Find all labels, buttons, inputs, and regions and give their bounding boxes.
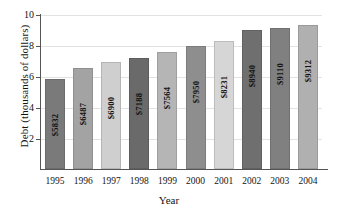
bar-slot: $7564 (153, 14, 181, 169)
y-tick-label: 8 (29, 41, 34, 51)
bars-layer: $5832$6487$6900$7188$7564$7950$8231$8940… (41, 14, 322, 169)
bar-value-label: $7188 (134, 92, 144, 114)
y-tick-mark (36, 46, 40, 47)
bar[interactable]: $6487 (73, 68, 93, 169)
y-tick-mark (36, 15, 40, 16)
y-tick-mark (36, 139, 40, 140)
bar-value-label: $9110 (275, 63, 285, 85)
bar-slot: $8940 (238, 14, 266, 169)
bar[interactable]: $7950 (186, 46, 206, 169)
x-axis-line (40, 169, 328, 170)
bar-slot: $8231 (210, 14, 238, 169)
bar-value-label: $8940 (247, 65, 257, 87)
bar-slot: $7188 (125, 14, 153, 169)
bar-slot: $5832 (41, 14, 69, 169)
y-tick-mark (36, 108, 40, 109)
bar[interactable]: $7564 (157, 52, 177, 169)
bar-value-label: $9312 (303, 60, 313, 82)
bar[interactable]: $8231 (214, 41, 234, 169)
bar-slot: $6900 (97, 14, 125, 169)
bar[interactable]: $7188 (129, 58, 149, 169)
bar-value-label: $5832 (50, 113, 60, 135)
bar-slot: $9312 (294, 14, 322, 169)
bar[interactable]: $6900 (101, 62, 121, 169)
x-axis-title: Year (0, 194, 338, 206)
y-tick-label: 10 (24, 10, 34, 20)
y-tick-label: 4 (29, 103, 34, 113)
bar[interactable]: $5832 (45, 79, 65, 169)
bar-value-label: $6487 (78, 103, 88, 125)
plot-area: 246810 $5832$6487$6900$7188$7564$7950$82… (40, 14, 322, 170)
bar-slot: $7950 (182, 14, 210, 169)
bar[interactable]: $8940 (242, 30, 262, 169)
bar-value-label: $6900 (106, 97, 116, 119)
bar-value-label: $7564 (162, 87, 172, 109)
bar-value-label: $8231 (219, 76, 229, 98)
x-tick-label: 2004 (288, 176, 328, 186)
bar-slot: $9110 (266, 14, 294, 169)
bar[interactable]: $9110 (270, 28, 290, 169)
debt-bar-chart: Debt (thousands of dollars) 246810 $5832… (0, 0, 338, 218)
y-tick-label: 2 (29, 134, 34, 144)
bar-slot: $6487 (69, 14, 97, 169)
y-tick-label: 6 (29, 72, 34, 82)
bar[interactable]: $9312 (298, 25, 318, 169)
bar-value-label: $7950 (191, 81, 201, 103)
y-tick-mark (36, 77, 40, 78)
